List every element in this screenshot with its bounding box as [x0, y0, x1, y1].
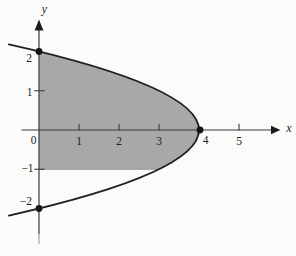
- y-tick-label-1: 1: [27, 86, 33, 98]
- x-tick-label-5: 5: [236, 135, 242, 147]
- x-tick-label-3: 3: [156, 135, 162, 147]
- x-tick-label-2: 2: [116, 135, 122, 147]
- plot-svg: xy0123541−12−2: [0, 0, 296, 256]
- point-dot-0-2: [36, 48, 43, 55]
- figure: xy0123541−12−2: [0, 0, 296, 256]
- point-dot-4-0: [197, 127, 204, 134]
- x-axis-label: x: [285, 121, 292, 135]
- y-point-label-neg2: −2: [20, 195, 32, 207]
- shaded-region: [39, 52, 199, 170]
- y-tick-label-neg1: −1: [21, 162, 33, 174]
- x-tick-label-1: 1: [76, 135, 82, 147]
- x-axis-arrow: [271, 126, 281, 135]
- x-point-label-4: 4: [203, 134, 209, 146]
- point-dot-0--2: [36, 205, 43, 212]
- origin-label: 0: [31, 134, 37, 146]
- y-axis-label: y: [41, 2, 48, 16]
- y-point-label-2: 2: [26, 52, 32, 64]
- y-axis-arrow: [35, 20, 44, 31]
